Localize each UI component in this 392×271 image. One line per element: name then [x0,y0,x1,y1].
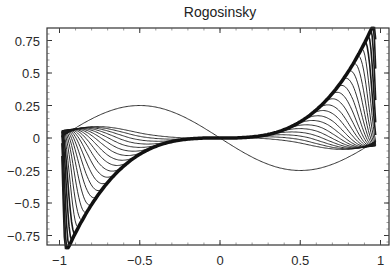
x-tick-label: 1 [377,253,384,268]
x-tick-label: −1 [52,253,67,268]
x-tick-label: 0 [216,253,223,268]
y-tick-label: 0.5 [22,66,40,81]
y-tick-label: −0.5 [14,196,40,211]
y-tick-label: −0.75 [7,229,40,244]
rogosinsky-chart: Rogosinsky −1−0.500.51 −0.75−0.5−0.2500.… [0,0,392,271]
cubic-envelope-curve [68,28,373,249]
chart-title: Rogosinsky [184,4,256,20]
y-tick-label: 0 [33,131,40,146]
y-tick-label: 0.25 [15,99,40,114]
approximation-curves [62,28,376,249]
x-tick-label: −0.5 [127,253,153,268]
x-tick-label: 0.5 [291,253,309,268]
y-tick-label: 0.75 [15,34,40,49]
y-tick-label: −0.25 [7,164,40,179]
